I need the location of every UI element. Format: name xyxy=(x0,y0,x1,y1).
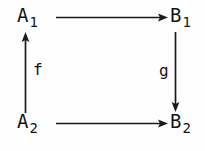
arrow-right-b1-to-b2 xyxy=(172,32,180,112)
arrow-top-head-icon xyxy=(158,13,168,21)
vertex-b1-subscript: 1 xyxy=(182,14,190,30)
vertex-label-b1: B1 xyxy=(170,6,190,25)
arrow-top-a1-to-b1 xyxy=(56,13,168,21)
vertex-label-a1: A1 xyxy=(17,6,37,25)
vertex-a2-subscript: 2 xyxy=(29,120,37,136)
vertex-a1-subscript: 1 xyxy=(29,14,37,30)
vertex-label-a2: A2 xyxy=(17,112,37,131)
vertex-label-b2: B2 xyxy=(170,112,190,131)
vertex-b1-base: B xyxy=(170,4,181,26)
morphism-label-f: f xyxy=(33,62,43,78)
morphism-label-g: g xyxy=(159,63,169,79)
arrow-left-head-icon xyxy=(22,32,30,42)
commutative-diagram: A1 B1 A2 B2 f g xyxy=(0,0,205,151)
vertex-a1-base: A xyxy=(17,4,28,26)
arrow-bottom-a2-to-b2 xyxy=(56,119,168,127)
arrow-bottom-head-icon xyxy=(158,119,168,127)
vertex-b2-subscript: 2 xyxy=(182,120,190,136)
vertex-b2-base: B xyxy=(170,110,181,132)
arrow-left-a2-to-a1 xyxy=(22,32,30,113)
vertex-a2-base: A xyxy=(17,110,28,132)
